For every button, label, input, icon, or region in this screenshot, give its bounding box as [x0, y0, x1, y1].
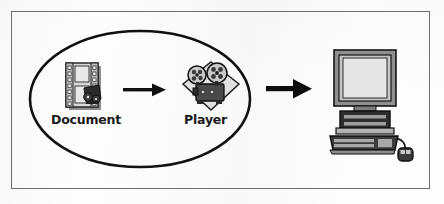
drive-slot-bottom [344, 122, 386, 126]
player-icon-foot-right [216, 100, 222, 104]
player-icon-knob-b [210, 90, 214, 94]
arrow1-head [152, 84, 166, 97]
monitor-screen [343, 58, 387, 98]
player-icon-lens [193, 88, 198, 95]
keyboard-key-row-1 [334, 139, 374, 142]
node-label-document: Document [51, 114, 121, 127]
arrow1-shaft [123, 88, 156, 91]
desktop-computer-icon [330, 50, 413, 161]
diagram-graphics [0, 0, 444, 204]
player-icon-reel-left [188, 66, 206, 84]
player-icon-arm-right [215, 81, 218, 86]
keyboard-front-edge [330, 150, 395, 154]
player-icon-reel-right [207, 63, 227, 83]
player-icon-arm-left [196, 82, 199, 86]
drive-slot-top [344, 115, 386, 119]
keyboard-key-row-2 [334, 144, 374, 147]
keyboard-numpad [378, 139, 392, 147]
mouse [398, 148, 413, 161]
arrow2-head [293, 79, 312, 99]
node-label-player: Player [184, 114, 227, 127]
monitor-neck [354, 106, 376, 111]
document-icon-pane-top [75, 66, 89, 82]
film-document-icon [66, 63, 101, 110]
arrow-document-to-player [123, 84, 166, 97]
player-icon-knob-a [201, 90, 205, 94]
document-icon-projector-overlay [84, 85, 101, 104]
movie-projector-icon [183, 62, 239, 110]
computer-base [336, 128, 394, 134]
diagram-canvas: Document Player [0, 0, 444, 204]
arrow-player-to-computer [266, 79, 312, 99]
keyboard [330, 136, 398, 154]
player-icon-foot-left [197, 100, 203, 104]
document-icon-sprockets-left [68, 66, 71, 105]
